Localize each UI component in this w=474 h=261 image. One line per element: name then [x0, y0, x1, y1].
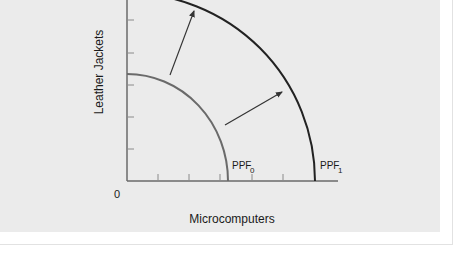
ppf0-label-sub: 0: [250, 166, 255, 175]
x-axis-ticks: [158, 174, 283, 181]
ppf0-label: PPF 0: [232, 160, 255, 175]
ppf1-label-sub: 1: [338, 166, 343, 175]
chart-panel: Leather Jackets 0 Microcomputers PPF 0 P…: [0, 0, 440, 232]
y-axis-label: Leather Jackets: [92, 30, 106, 115]
y-axis-ticks: [127, 20, 134, 149]
ppf-chart: Leather Jackets 0 Microcomputers PPF 0 P…: [0, 0, 440, 232]
ppf1-label-main: PPF: [320, 160, 339, 171]
ppf0-label-main: PPF: [232, 160, 251, 171]
shift-arrow-right: [225, 92, 282, 125]
figure-frame: Leather Jackets 0 Microcomputers PPF 0 P…: [0, 0, 453, 245]
ppf1-label: PPF 1: [320, 160, 343, 175]
x-axis-label: Microcomputers: [189, 212, 274, 226]
shift-arrow-up: [170, 11, 194, 75]
ppf0-curve: [127, 74, 228, 181]
ppf1-curve: [127, 0, 315, 181]
origin-label: 0: [114, 188, 120, 200]
